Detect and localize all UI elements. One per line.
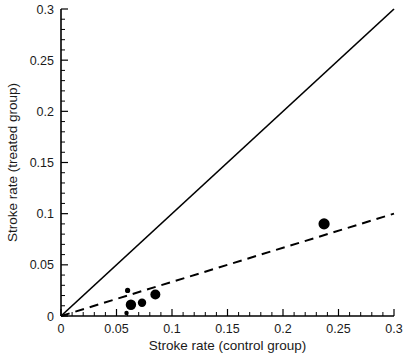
y-axis-tick-label: 0.3 xyxy=(37,3,54,17)
data-point xyxy=(318,218,329,229)
y-axis-tick-label: 0 xyxy=(47,310,54,324)
regression-line xyxy=(61,214,394,316)
x-axis-tick-label: 0.3 xyxy=(385,322,402,336)
data-point xyxy=(150,290,160,300)
x-axis-tick-label: 0.1 xyxy=(163,322,180,336)
y-axis-tick-label: 0.15 xyxy=(30,156,54,170)
stroke-rate-scatter-figure: 00.050.10.150.20.250.300.050.10.150.20.2… xyxy=(0,0,409,356)
x-axis-title: Stroke rate (control group) xyxy=(149,338,307,353)
y-axis-tick-label: 0.05 xyxy=(30,258,54,272)
x-axis-tick-label: 0.2 xyxy=(274,322,291,336)
trend-lines-group xyxy=(61,9,394,316)
y-axis-tick-label: 0.2 xyxy=(37,105,54,119)
x-axis-tick-label: 0.25 xyxy=(326,322,350,336)
data-point xyxy=(125,288,130,293)
plot-canvas: 00.050.10.150.20.250.300.050.10.150.20.2… xyxy=(0,0,409,356)
data-points-group xyxy=(124,218,329,315)
x-axis-tick-label: 0 xyxy=(58,322,65,336)
y-axis-tick-label: 0.25 xyxy=(30,54,54,68)
data-point xyxy=(138,298,146,306)
data-point xyxy=(124,311,128,315)
x-axis-tick-label: 0.15 xyxy=(215,322,239,336)
x-axis-tick-label: 0.05 xyxy=(104,322,128,336)
y-axis-title: Stroke rate (treated group) xyxy=(5,83,20,242)
identity-line xyxy=(61,9,394,316)
data-point xyxy=(126,300,136,310)
y-axis-tick-label: 0.1 xyxy=(37,207,54,221)
